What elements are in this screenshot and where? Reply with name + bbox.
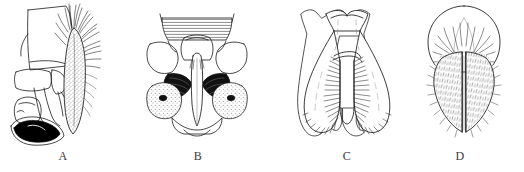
panel-b-hatched-band: [158, 14, 238, 44]
panel-b-right-connector: [218, 41, 226, 52]
panel-c-right-lobe: [354, 31, 390, 133]
panel-c-left-lobe: [304, 31, 340, 133]
panel-a-fold-line: [30, 61, 66, 64]
panel-a-dark-hook: [14, 120, 60, 142]
panel-label-b: B: [178, 148, 218, 164]
panel-a-valve-notch: [17, 111, 24, 113]
panel-a-left-margin: [21, 34, 28, 56]
panel-a-setose-lobe: [58, 24, 92, 138]
panel-label-c: C: [327, 148, 367, 164]
panel-b-right-plate: [216, 42, 247, 74]
panel-b-terminal-margin: [184, 130, 210, 136]
panel-a-ray-1: [58, 92, 63, 116]
panel-b-left-lobe-spot: [159, 95, 167, 101]
figure-panel-a: [8, 0, 126, 148]
figure-panel-b: [138, 0, 256, 148]
figure-panel-d: [412, 0, 516, 148]
panel-b-right-lobe-spot: [227, 95, 235, 101]
panel-label-a: A: [43, 148, 83, 164]
panel-c-dorsal-plate: [326, 10, 368, 31]
figure-panel-c: [282, 0, 412, 148]
figure-plate: A: [0, 0, 524, 172]
panel-a-valve-fold: [19, 103, 35, 105]
panel-b-left-plate: [147, 42, 178, 74]
panel-b-left-connector: [168, 41, 176, 52]
panel-label-d: D: [440, 148, 480, 164]
panel-a-accessory-plate: [15, 69, 52, 91]
